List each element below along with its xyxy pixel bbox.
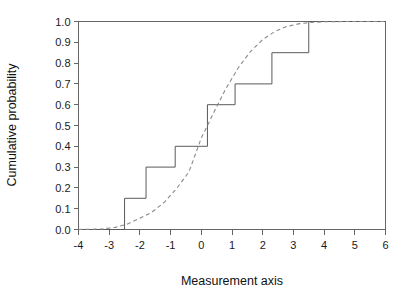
y-tick-label: 0.4 <box>55 140 70 152</box>
x-tick-label: 0 <box>198 239 204 251</box>
x-tick-label: 3 <box>290 239 296 251</box>
x-tick-label: -2 <box>135 239 145 251</box>
y-tick-label: 0.3 <box>55 161 70 173</box>
y-tick-label: 0.0 <box>55 224 70 236</box>
x-axis-ticks: -4-3-2-10123456 <box>74 230 389 251</box>
series-layer <box>79 22 386 230</box>
cdf-chart: 0.00.10.20.30.40.50.60.70.80.91.0 -4-3-2… <box>0 0 401 291</box>
x-tick-label: 6 <box>382 239 388 251</box>
y-tick-label: 0.5 <box>55 120 70 132</box>
x-tick-label: 2 <box>260 239 266 251</box>
y-tick-label: 0.9 <box>55 36 70 48</box>
y-tick-label: 0.1 <box>55 203 70 215</box>
x-tick-label: 1 <box>229 239 235 251</box>
y-tick-label: 0.2 <box>55 182 70 194</box>
x-tick-label: -3 <box>104 239 114 251</box>
y-tick-label: 1.0 <box>55 16 70 28</box>
x-tick-label: 4 <box>321 239 327 251</box>
y-axis-ticks: 0.00.10.20.30.40.50.60.70.80.91.0 <box>55 16 78 236</box>
y-tick-label: 0.7 <box>55 78 70 90</box>
x-axis-title: Measurement axis <box>181 274 283 288</box>
y-tick-label: 0.6 <box>55 99 70 111</box>
x-tick-label: 5 <box>352 239 358 251</box>
empirical-cdf-step <box>79 22 386 230</box>
plot-canvas: 0.00.10.20.30.40.50.60.70.80.91.0 -4-3-2… <box>0 0 401 291</box>
x-tick-label: -4 <box>74 239 84 251</box>
y-axis-title: Cumulative probability <box>5 63 19 187</box>
y-tick-label: 0.8 <box>55 57 70 69</box>
x-tick-label: -1 <box>166 239 176 251</box>
